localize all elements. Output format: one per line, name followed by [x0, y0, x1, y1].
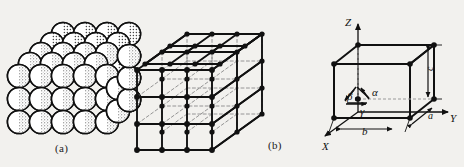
axis-label-z: Z	[345, 16, 351, 28]
angle-label-beta: β	[347, 90, 352, 102]
edge-length-label-c: c	[424, 67, 435, 71]
axis-label-y: Y	[450, 112, 456, 124]
crystal-structure-figure	[0, 0, 464, 167]
angle-label-alpha: α	[372, 86, 378, 98]
unit-cell-origin-point	[355, 97, 359, 101]
angle-label-gamma: γ	[360, 105, 364, 117]
edge-length-label-a: a	[428, 110, 433, 121]
axis-label-x: X	[322, 140, 329, 152]
caption-panel-b: (b)	[268, 139, 282, 151]
caption-panel-a: (a)	[55, 142, 68, 154]
edge-length-label-b: b	[362, 125, 368, 137]
